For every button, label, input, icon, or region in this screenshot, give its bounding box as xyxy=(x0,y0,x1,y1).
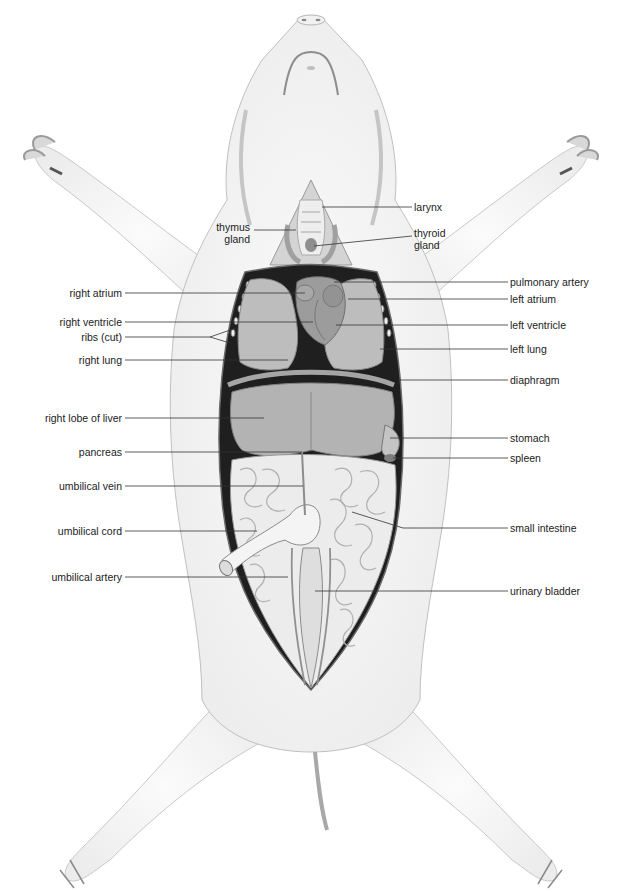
label-small-intestine: small intestine xyxy=(510,522,577,534)
label-stomach: stomach xyxy=(510,432,550,444)
label-left-lung: left lung xyxy=(510,343,547,355)
label-pancreas: pancreas xyxy=(79,446,122,458)
label-diaphragm: diaphragm xyxy=(510,374,560,386)
fetal-pig-diagram: thymus gland right atrium right ventricl… xyxy=(0,0,622,892)
label-right-atrium: right atrium xyxy=(69,287,122,299)
label-thyroid-gland: thyroid gland xyxy=(414,227,446,251)
label-thymus-gland: thymus gland xyxy=(216,221,250,245)
label-spleen: spleen xyxy=(510,452,541,464)
label-urinary-bladder: urinary bladder xyxy=(510,585,580,597)
label-umbilical-cord: umbilical cord xyxy=(58,525,122,537)
label-right-ventricle: right ventricle xyxy=(60,316,122,328)
label-right-lobe-of-liver: right lobe of liver xyxy=(45,412,122,424)
label-umbilical-artery: umbilical artery xyxy=(51,571,122,583)
liver xyxy=(230,383,394,456)
right-lung xyxy=(238,279,297,370)
label-umbilical-vein: umbilical vein xyxy=(59,480,122,492)
tail xyxy=(315,752,327,830)
label-pulmonary-artery: pulmonary artery xyxy=(510,276,589,288)
label-left-atrium: left atrium xyxy=(510,293,556,305)
label-left-ventricle: left ventricle xyxy=(510,319,566,331)
label-right-lung: right lung xyxy=(79,354,122,366)
label-larynx: larynx xyxy=(414,201,442,213)
snout xyxy=(297,15,325,25)
label-ribs-cut: ribs (cut) xyxy=(81,331,122,343)
